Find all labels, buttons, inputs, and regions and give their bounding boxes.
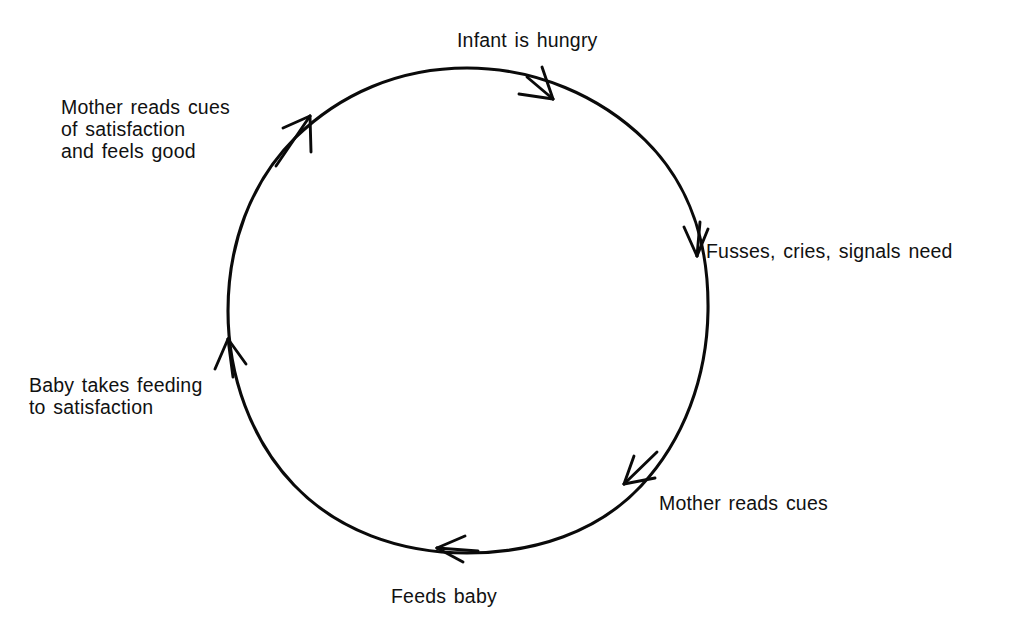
arrow-bottom [437, 536, 478, 562]
cycle-label-mother-satisfaction: Mother reads cues of satisfaction and fe… [61, 96, 230, 162]
cycle-label-feeds-baby: Feeds baby [391, 585, 497, 607]
arrow-left [215, 339, 246, 377]
cycle-label-baby-takes-feeding: Baby takes feeding to satisfaction [29, 374, 202, 418]
arrow-top-left [276, 116, 311, 166]
arrow-bottom-right [624, 452, 657, 484]
arrow-top [519, 67, 553, 99]
cycle-diagram: Infant is hungry Fusses, cries, signals … [0, 0, 1019, 635]
cycle-label-fusses-cries: Fusses, cries, signals need [706, 240, 953, 262]
cycle-label-infant-hungry: Infant is hungry [457, 29, 598, 51]
cycle-label-mother-reads-cues: Mother reads cues [659, 492, 828, 514]
